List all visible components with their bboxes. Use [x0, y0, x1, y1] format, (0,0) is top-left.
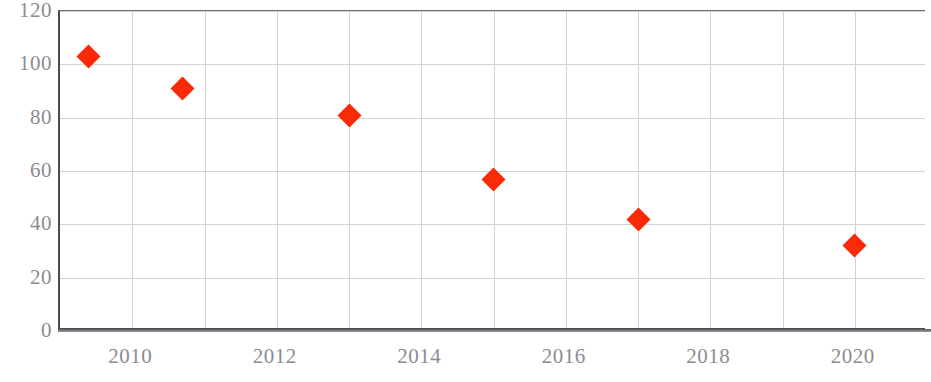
- x-tick-label: 2018: [686, 346, 730, 367]
- x-tick-label: 2016: [542, 346, 586, 367]
- x-tick-label: 2010: [108, 346, 152, 367]
- x-axis-tick-labels: 201020122014201620182020: [0, 0, 931, 382]
- x-tick-label: 2012: [253, 346, 297, 367]
- scatter-chart: 020406080100120 201020122014201620182020: [0, 0, 931, 382]
- x-tick-label: 2014: [397, 346, 441, 367]
- x-tick-label: 2020: [831, 346, 875, 367]
